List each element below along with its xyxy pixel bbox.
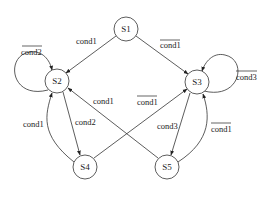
label-s2-self: cond2 [21, 47, 42, 57]
node-s2: S2 [45, 69, 69, 93]
edge-s4-s2 [47, 93, 74, 162]
label-s4-s3: cond1 [137, 97, 158, 107]
label-s4-s2: cond1 [23, 119, 44, 129]
node-s3-label: S3 [192, 77, 202, 87]
edge-s5-s3 [178, 94, 207, 162]
node-s2-label: S2 [52, 76, 62, 86]
node-s5: S5 [155, 155, 179, 179]
node-s4: S4 [73, 155, 97, 179]
node-s1-label: S1 [121, 24, 131, 34]
label-s1-s2: cond1 [76, 36, 97, 46]
label-s3-s5: cond3 [157, 121, 178, 131]
node-s1: S1 [114, 17, 138, 41]
label-s5-s2: cond1 [93, 96, 114, 106]
label-s5-s3: cond1 [211, 124, 232, 134]
node-s3: S3 [185, 70, 209, 94]
state-diagram: S1 S2 S3 S4 S5 cond1 cond1 cond2 cond3 c… [0, 0, 268, 211]
label-s2-s4: cond2 [75, 117, 96, 127]
node-s5-label: S5 [162, 162, 172, 172]
node-s4-label: S4 [80, 162, 90, 172]
label-s3-self: cond3 [236, 72, 257, 82]
label-s1-s3: cond1 [160, 40, 181, 50]
